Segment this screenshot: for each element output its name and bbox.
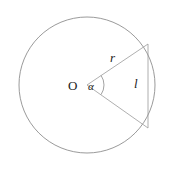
central-angle-arc [101,76,104,95]
circle-sector-diagram: O α r l [0,0,173,171]
radius-label: r [110,51,115,64]
upper-radius-line [87,44,148,85]
chord-length-label: l [134,77,138,90]
lower-radius-line [87,85,148,128]
central-angle-label: α [88,81,94,92]
center-point-label: O [68,79,77,92]
diagram-canvas [0,0,173,171]
